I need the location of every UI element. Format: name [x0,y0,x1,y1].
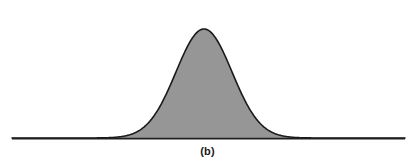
figure-container: (b) [0,0,415,167]
figure-caption: (b) [0,145,415,158]
distribution-area-fill [12,29,405,138]
bell-curve-plot [0,0,415,167]
